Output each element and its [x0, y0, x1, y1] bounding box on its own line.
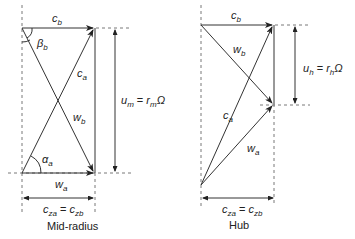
w-b-vector [22, 28, 93, 171]
w-a-vector [201, 106, 272, 185]
alpha-a-label: αa [42, 153, 53, 168]
alpha-a-angle-arc [31, 156, 41, 173]
w-b-label: wb [73, 111, 86, 126]
c-a-vector [22, 30, 93, 173]
w-b-vector [201, 25, 272, 103]
c-a-label: ca [77, 67, 88, 82]
w-a-label: wa [55, 178, 68, 193]
u-h-equation: uh = rhΩ [303, 62, 343, 77]
u-m-equation: um = rmΩ [121, 94, 165, 109]
hub-triangle: cb wb ca wa uh = rhΩ cza = czb Hub [201, 5, 343, 231]
beta-b-label: βb [36, 37, 48, 52]
beta-b-angle-arc [27, 28, 32, 38]
cz-equation: cza = czb [43, 203, 84, 218]
mid-radius-caption: Mid-radius [47, 220, 99, 232]
w-b-label: wb [233, 43, 246, 58]
c-b-label: cb [231, 9, 242, 24]
hub-caption: Hub [229, 219, 249, 231]
mid-radius-triangle: cb βb ca wb αa wa um = rmΩ cza = czb Mid… [8, 5, 165, 232]
c-a-label: ca [223, 109, 234, 124]
velocity-triangles-diagram: cb βb ca wb αa wa um = rmΩ cza = czb Mid… [0, 0, 355, 239]
c-b-label: cb [52, 12, 63, 27]
cz-equation: cza = czb [222, 203, 263, 218]
w-a-label: wa [247, 142, 260, 157]
